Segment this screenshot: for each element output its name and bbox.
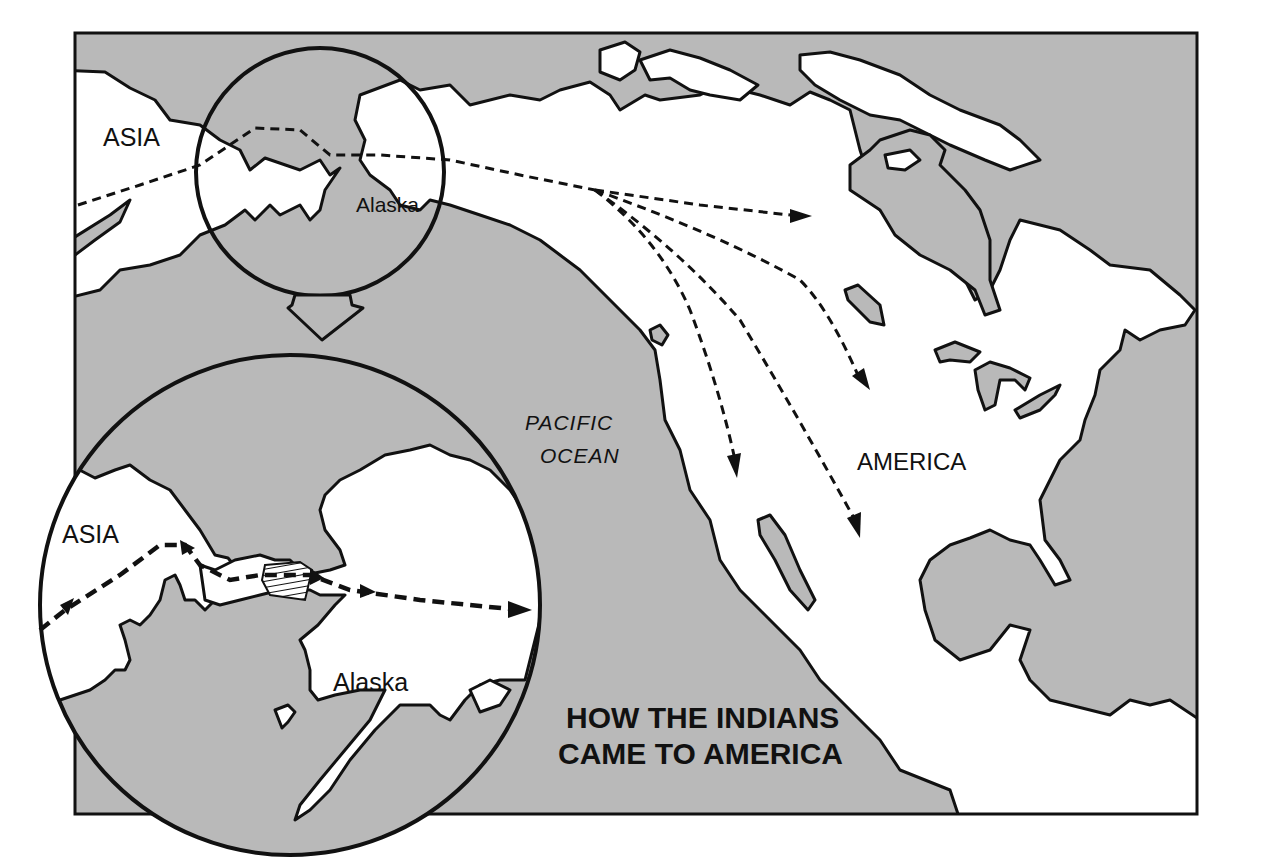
map-title-line1: HOW THE INDIANS — [566, 701, 839, 734]
bering-land-bridge-hatch — [262, 562, 312, 600]
label-asia: ASIA — [103, 123, 160, 151]
migration-map: ASIA Alaska PACIFIC OCEAN AMERICA ASIA A… — [0, 0, 1275, 867]
label-america: AMERICA — [857, 448, 966, 475]
label-asia-inset: ASIA — [62, 520, 119, 548]
label-pacific: PACIFIC — [525, 411, 613, 434]
map-title-line2: CAME TO AMERICA — [558, 737, 843, 770]
label-ocean: OCEAN — [540, 444, 620, 467]
label-alaska: Alaska — [356, 193, 419, 216]
inset-circle — [40, 355, 540, 855]
label-alaska-inset: Alaska — [333, 668, 408, 696]
